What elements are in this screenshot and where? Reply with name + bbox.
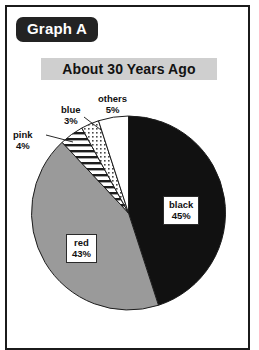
slice-label-others-value: 5% bbox=[98, 104, 127, 115]
slice-label-blue-name: blue bbox=[61, 104, 81, 115]
slice-label-black: black 45% bbox=[163, 196, 199, 225]
slice-label-blue: blue 3% bbox=[61, 104, 81, 127]
slice-label-blue-value: 3% bbox=[61, 115, 81, 126]
slice-label-others: others 5% bbox=[98, 93, 127, 116]
slice-label-black-name: black bbox=[169, 199, 193, 210]
slice-label-pink: pink 4% bbox=[13, 129, 33, 152]
slice-label-red-name: red bbox=[72, 237, 91, 248]
slice-label-others-name: others bbox=[98, 93, 127, 104]
slice-label-red: red 43% bbox=[66, 234, 97, 263]
slice-label-pink-name: pink bbox=[13, 129, 33, 140]
slice-label-red-value: 43% bbox=[72, 248, 91, 259]
slice-label-black-value: 45% bbox=[169, 210, 193, 221]
slice-label-pink-value: 4% bbox=[13, 140, 33, 151]
